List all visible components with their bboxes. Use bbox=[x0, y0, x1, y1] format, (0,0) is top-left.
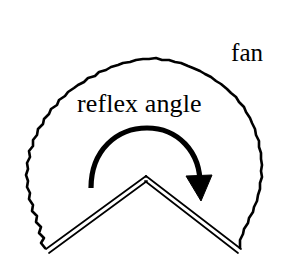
reflex-angle-arrowhead bbox=[186, 175, 212, 201]
figure-canvas: reflex angle fan bbox=[0, 0, 291, 270]
fan-scalloped-edge bbox=[26, 58, 262, 248]
fan-spine-right-inner-line bbox=[145, 181, 238, 253]
fan-label: fan bbox=[231, 40, 263, 65]
reflex-angle-arc bbox=[91, 128, 200, 188]
reflex-angle-label: reflex angle bbox=[77, 91, 202, 117]
fan-spine-left-outer-line bbox=[46, 176, 146, 249]
fan-spine-left-inner-line bbox=[49, 181, 147, 253]
